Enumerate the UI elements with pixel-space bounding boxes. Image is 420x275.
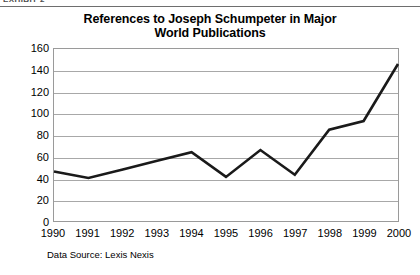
y-tick-label: 60 [3, 151, 49, 162]
series-line [54, 64, 398, 178]
y-tick-label: 20 [3, 195, 49, 206]
exhibit-header: EXHIBIT 2 [0, 0, 420, 9]
source-note: Data Source: Lexis Nexis [47, 249, 154, 260]
plot-area [53, 48, 399, 222]
exhibit-label: EXHIBIT 2 [3, 0, 45, 4]
y-tick-label: 120 [3, 86, 49, 97]
chart-title-line-1: References to Joseph Schumpeter in Major [83, 12, 336, 26]
y-tick-label: 160 [3, 43, 49, 54]
y-tick-label: 100 [3, 108, 49, 119]
data-series-line [54, 49, 398, 221]
chart-title-line-2: World Publications [154, 26, 265, 40]
header-divider [0, 6, 420, 7]
line-chart: References to Joseph Schumpeter in Major… [0, 9, 420, 275]
y-tick-label: 80 [3, 130, 49, 141]
chart-title: References to Joseph Schumpeter in Major… [40, 12, 380, 40]
y-tick-label: 40 [3, 173, 49, 184]
y-tick-label: 0 [3, 217, 49, 228]
x-axis: 1990199119921993199419951996199719981999… [53, 227, 399, 243]
x-tick-label: 2000 [379, 227, 419, 240]
y-axis: 160140120100806040200 [0, 48, 49, 222]
y-tick-label: 140 [3, 64, 49, 75]
